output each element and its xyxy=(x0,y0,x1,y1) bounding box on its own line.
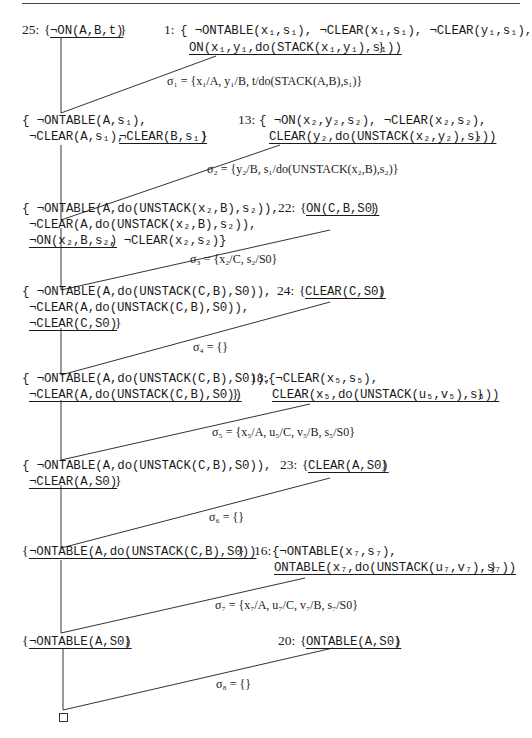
resolvent-5-close-brace: } xyxy=(115,473,121,489)
clause-23-literal: CLEAR(A,S0) xyxy=(308,458,389,474)
resolvent-2-resolved-literal: ¬ON(x₂,B,s₂) xyxy=(29,233,117,249)
clause-22-label: 22: xyxy=(278,200,295,216)
clause-1-label: 1: xyxy=(164,22,175,38)
clause-13-label: 13: xyxy=(238,112,255,128)
clause-1-resolved-literal: ON(x₁,y₁,do(STACK(x₁,y₁),s₁)) xyxy=(189,40,402,56)
resolvent-2-line3-rest: , ¬CLEAR(x₂,s₂)} xyxy=(109,233,226,249)
resolvent-6-open-brace: { xyxy=(22,543,28,559)
resolvent-5-line1: { ¬ONTABLE(A,do(UNSTACK(C,B),S0)), xyxy=(22,458,271,474)
empty-clause-box-icon xyxy=(59,713,68,722)
clause-24-literal: CLEAR(C,S0) xyxy=(305,284,386,300)
clause-20-label: 20: xyxy=(278,633,295,649)
clause-1-close-brace: } xyxy=(378,39,384,55)
clause-16-resolved-literal: ONTABLE(x₇,do(UNSTACK(u₇,v₇),s₇)) xyxy=(274,560,516,576)
resolvent-1-resolved-literal: ¬CLEAR(B,s₁) xyxy=(119,129,207,145)
substitution-sigma-3: σ₃ = {x₂/C, s₂/S0} xyxy=(190,251,277,267)
resolvent-2-line1: { ¬ONTABLE(A,do(UNSTACK(x₂,B),s₂)), xyxy=(22,201,279,217)
substitution-sigma-5: σ₅ = {x₅/A, u₅/C, v₅/B, s₅/S0} xyxy=(212,424,355,440)
resolvent-7-resolved-literal: ¬ONTABLE(A,S0) xyxy=(29,634,132,650)
resolvent-3-line1: { ¬ONTABLE(A,do(UNSTACK(C,B),S0)), xyxy=(22,284,271,300)
clause-22-close-brace: } xyxy=(370,200,376,216)
clause-18-resolved-literal: CLEAR(x₅,do(UNSTACK(u₅,v₅),s₅)) xyxy=(272,387,499,403)
clause-13-resolved-literal: CLEAR(y₂,do(UNSTACK(x₂,y₂),s₂)) xyxy=(269,129,496,145)
resolvent-6-close-brace: } xyxy=(238,543,244,559)
clause-23-close-brace: } xyxy=(381,457,387,473)
resolvent-3-resolved-literal: ¬CLEAR(C,S0) xyxy=(29,316,117,332)
resolvent-4-line1: { ¬ONTABLE(A,do(UNSTACK(C,B),S0)), xyxy=(22,371,271,387)
resolvent-5-resolved-literal: ¬CLEAR(A,S0) xyxy=(29,474,117,490)
clause-25-label: 25: xyxy=(22,22,39,38)
clause-23-label: 23: xyxy=(280,457,297,473)
clause-16-line1: {¬ONTABLE(x₇,s₇), xyxy=(272,544,397,560)
resolvent-7-close-brace: } xyxy=(124,633,130,649)
substitution-sigma-6: σ₆ = {} xyxy=(209,509,244,525)
resolvent-4-resolved-literal: ¬CLEAR(A,do(UNSTACK(C,B),S0)) xyxy=(29,387,242,403)
clause-18-line1: {¬CLEAR(x₅,s₅), xyxy=(268,371,378,387)
substitution-sigma-2: σ₂ = {y₂/B, s₁/do(UNSTACK(x₂,B),s₂)} xyxy=(207,161,398,177)
clause-1-line1: { ¬ONTABLE(x₁,s₁), ¬CLEAR(x₁,s₁), ¬CLEAR… xyxy=(180,23,532,39)
clause-13-line1: { ¬ON(x₂,y₂,s₂), ¬CLEAR(x₂,s₂), xyxy=(259,113,486,129)
clause-20-close-brace: } xyxy=(394,633,400,649)
resolvent-2-line2: ¬CLEAR(A,do(UNSTACK(x₂,B),s₂)), xyxy=(29,217,256,233)
resolvent-6-resolved-literal: ¬ONTABLE(A,do(UNSTACK(C,B),S0)) xyxy=(29,544,256,560)
substitution-sigma-8: σ₈ = {} xyxy=(216,676,251,692)
resolvent-3-line2: ¬CLEAR(A,do(UNSTACK(C,B),S0)), xyxy=(29,300,249,316)
resolvent-1-line2-plain: ¬CLEAR(A,s₁), xyxy=(29,129,124,145)
clause-16-close-brace: } xyxy=(490,559,496,575)
clause-18-label: 18: xyxy=(250,370,267,386)
clause-13-close-brace: } xyxy=(474,128,480,144)
edge-20-empty xyxy=(63,648,333,710)
clause-22-literal: ON(C,B,S0) xyxy=(306,201,379,217)
clause-25-close-brace: } xyxy=(120,22,126,38)
substitution-sigma-4: σ₄ = {} xyxy=(193,339,228,355)
clause-16-label: 16: xyxy=(254,543,271,559)
resolvent-7-open-brace: { xyxy=(22,633,28,649)
resolvent-1-close-brace: } xyxy=(201,128,207,144)
clause-18-close-brace: } xyxy=(477,386,483,402)
resolvent-4-close-brace: } xyxy=(232,386,238,402)
clause-24-close-brace: } xyxy=(378,283,384,299)
resolvent-1-line1: { ¬ONTABLE(A,s₁), xyxy=(22,113,147,129)
resolvent-3-close-brace: } xyxy=(115,315,121,331)
clause-20-literal: ONTABLE(A,S0) xyxy=(306,634,401,650)
clause-25-literal: ¬ON(A,B,t) xyxy=(50,23,123,39)
clause-24-label: 24: xyxy=(277,283,294,299)
substitution-sigma-7: σ₇ = {x₇/A, u₇/C, v₇/B, s₇/S0} xyxy=(215,597,358,613)
substitution-sigma-1: σ₁ = {x₁/A, y₁/B, t/do(STACK(A,B),s₁)} xyxy=(167,73,362,89)
